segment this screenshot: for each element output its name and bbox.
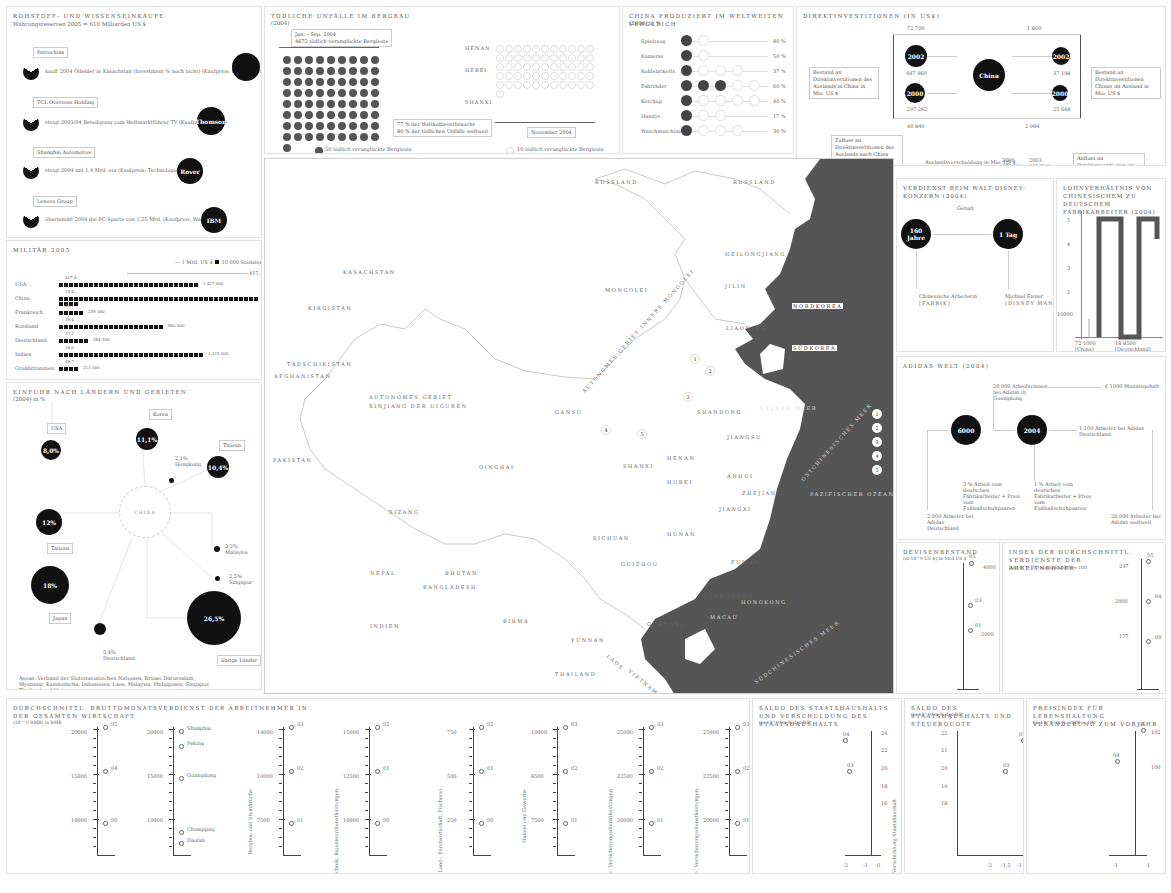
point-label: 00 <box>383 817 389 823</box>
vertical-label: Finanz-, Versicherungsdienstleistungen <box>693 789 699 874</box>
fatality-dot <box>360 122 368 130</box>
adidas-disc-right: 2004 <box>1017 415 1047 445</box>
open-dot <box>550 54 558 62</box>
fdi-connector <box>927 93 957 94</box>
import-label-singapur: 2,5%Singapur <box>229 573 252 585</box>
data-point <box>563 821 568 826</box>
axis-tick <box>469 756 472 757</box>
point-label: 03 <box>847 762 853 768</box>
axis-tick <box>553 801 556 802</box>
fatality-dot <box>294 78 302 86</box>
tick-label: 10000 <box>257 773 273 779</box>
import-disc-usa: 8,0% <box>41 440 61 460</box>
axis-tick <box>365 747 368 748</box>
production-label: Kohlebriketts <box>641 68 675 74</box>
x-tick: -1,5 <box>1001 862 1011 868</box>
axis-tick <box>93 801 96 802</box>
fatality-dot <box>316 111 324 119</box>
fatality-dot <box>305 78 313 86</box>
legend-open: 10 tödlich verunglückte Bergleute <box>517 146 604 152</box>
debt-2003: 2003168 598 <box>1029 157 1050 166</box>
axis-tick <box>553 828 556 829</box>
data-point <box>735 821 740 826</box>
axis-tick <box>279 801 282 802</box>
production-filled-dot <box>681 65 692 76</box>
military-panel: Militär 2005 ― 1 Mrd. US $ 10 000 Soldat… <box>6 240 262 380</box>
fatality-dot <box>360 100 368 108</box>
point-label: 03 <box>657 721 663 727</box>
fatality-dot <box>371 89 379 97</box>
production-value: 17 % <box>773 113 786 119</box>
fatality-dot <box>360 133 368 141</box>
axis-tick <box>365 810 368 811</box>
axis-tick <box>553 810 556 811</box>
fdi-disc-2000-in: 2000 <box>905 83 925 103</box>
budget-tax-axis <box>957 731 958 855</box>
open-dot <box>532 72 540 80</box>
tick-label: 18 <box>941 800 947 806</box>
budget-tax-subtitle: (in 10^9) in % des BIP <box>911 711 963 719</box>
region-note: November 2004 <box>527 127 576 138</box>
wage-index-panel: Index der durchschnittl. Verdienste der … <box>1002 542 1166 694</box>
military-country: Deutschland <box>15 337 47 343</box>
map-label-hubei: Hubei <box>667 479 693 485</box>
axis-tick <box>469 729 475 730</box>
fatality-dot <box>305 122 313 130</box>
fatality-dot <box>338 89 346 97</box>
open-dot <box>505 63 513 71</box>
axis-tick <box>639 765 642 766</box>
fatality-dot <box>305 67 313 75</box>
adidas-bottom-right: 20.000 Arbeiter bei Adidas weltweit <box>1111 513 1161 525</box>
map-label-nepal: Nepal <box>370 570 396 576</box>
tick-label: 100 <box>1151 764 1161 770</box>
axis-tick <box>469 774 475 775</box>
map-label-gansu: Gansu <box>555 409 583 415</box>
tick-label: 10000 <box>147 817 163 823</box>
wage-axis <box>473 727 474 855</box>
fatality-dot <box>360 78 368 86</box>
fatality-dot <box>327 111 335 119</box>
tick-label: 21 <box>941 747 947 753</box>
tick-label: 7500 <box>531 817 544 823</box>
map-label-hongkong: Hongkong <box>741 599 787 605</box>
open-dot <box>523 81 531 89</box>
axis-tick <box>553 774 559 775</box>
axis-tick <box>725 819 731 820</box>
import-label-japan: Japan <box>49 613 71 624</box>
axis-base <box>473 855 491 856</box>
fatality-dot <box>349 67 357 75</box>
map-label-liaoning: Liaoning <box>726 325 767 331</box>
data-point <box>179 776 184 781</box>
adidas-title: Adidas Welt (2004) <box>903 362 989 370</box>
disney-connector <box>933 234 991 235</box>
production-value: 50 % <box>773 53 786 59</box>
adidas-connector <box>927 430 949 431</box>
military-soldiers: 1 427 000 <box>203 281 223 286</box>
spend-line <box>127 273 247 274</box>
open-dot <box>586 54 594 62</box>
budget-tax-panel: Saldo des Staatshaushalts und Steuerquot… <box>904 698 1024 874</box>
fatality-dot <box>316 133 324 141</box>
military-soldiers: 284 500 <box>93 337 110 342</box>
military-spend: 37,2 <box>65 331 74 336</box>
production-open-dot <box>715 65 726 76</box>
legend-soldiers: 10 000 Soldaten <box>215 259 262 265</box>
wage-axis <box>729 727 730 855</box>
data-point <box>375 821 380 826</box>
map-marker-5-loc: 5 <box>637 429 647 439</box>
point-label: 04 <box>1113 752 1119 758</box>
map-label-jiangxi: Jiangxi <box>719 506 752 512</box>
adidas-connector <box>1152 430 1153 510</box>
axis-tick <box>725 801 728 802</box>
mining-callout: 77 % der Weltkohleverbrauchs80 % der töd… <box>393 119 492 137</box>
fdi-disc-china: China <box>973 59 1005 91</box>
monthly-wage-panel: Durchschnittl. Bruttomonatsverdienst der… <box>6 698 750 874</box>
production-label: Kameras <box>641 53 663 59</box>
map-marker-4: 4 <box>872 451 882 461</box>
map-label-zhejiang: Zhejiang <box>742 490 782 496</box>
production-value: 80 % <box>773 38 786 44</box>
point-label: 00 <box>111 817 117 823</box>
data-point <box>1146 639 1151 644</box>
point-label: 01 <box>657 817 663 823</box>
bracket-line-right <box>495 122 595 123</box>
